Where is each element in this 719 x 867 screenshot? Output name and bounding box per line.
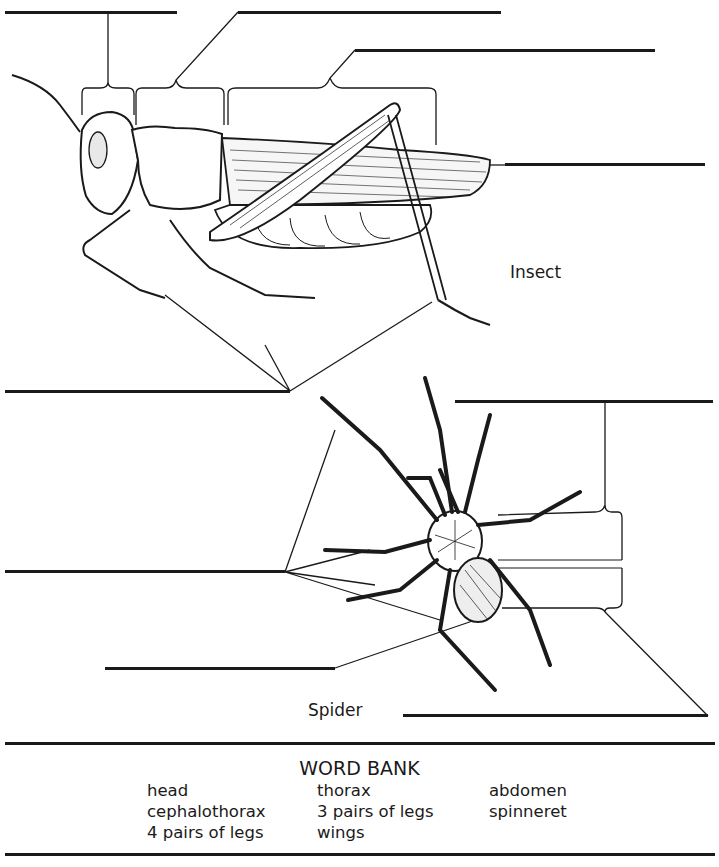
spider-leg-1: [322, 398, 437, 520]
spider-abdomen-blank[interactable]: [403, 714, 708, 717]
spider-leg-5: [325, 540, 430, 552]
grasshopper-antenna: [12, 75, 80, 132]
insect-legs-blank[interactable]: [5, 390, 290, 393]
spider-leg-6: [348, 560, 437, 600]
word-bank-top-rule: [5, 742, 715, 745]
grasshopper-eye: [89, 132, 107, 168]
word-bank-column-2: thorax 3 pairs of legs wings: [317, 780, 434, 843]
legs-leaders: [165, 295, 432, 391]
word-bank-column-1: head cephalothorax 4 pairs of legs: [147, 780, 266, 843]
word-cephalothorax: cephalothorax: [147, 801, 266, 822]
word-bank-column-3: abdomen spinneret: [489, 780, 567, 822]
spider-legs-blank[interactable]: [5, 570, 285, 573]
word-thorax: thorax: [317, 780, 434, 801]
spider-cephalothorax-blank[interactable]: [455, 400, 713, 403]
word-bank-title: WORD BANK: [0, 757, 719, 779]
spider-spinneret-blank[interactable]: [105, 667, 335, 670]
spider-abdomen-bracket: [502, 568, 708, 716]
grasshopper-thorax: [132, 126, 222, 209]
spider-leg-4: [478, 492, 580, 525]
head-bracket: [82, 12, 134, 115]
abdomen-bracket: [228, 50, 436, 145]
insect-head-blank[interactable]: [5, 11, 177, 14]
grasshopper-head: [81, 112, 138, 214]
insect-thorax-blank[interactable]: [238, 11, 501, 14]
word-spinneret: spinneret: [489, 801, 567, 822]
cephalothorax-bracket: [498, 402, 622, 560]
word-4-pairs-of-legs: 4 pairs of legs: [147, 822, 266, 843]
word-abdomen: abdomen: [489, 780, 567, 801]
spider-legs-leaders: [285, 430, 440, 620]
word-head: head: [147, 780, 266, 801]
insect-abdomen-blank[interactable]: [355, 49, 655, 52]
spider-caption: Spider: [308, 700, 363, 720]
word-wings: wings: [317, 822, 434, 843]
word-3-pairs-of-legs: 3 pairs of legs: [317, 801, 434, 822]
insect-caption: Insect: [510, 262, 561, 282]
grasshopper-front-leg: [83, 210, 165, 298]
word-bank-bottom-rule: [5, 853, 715, 856]
diagram-artwork: [0, 0, 719, 867]
insect-wings-blank[interactable]: [505, 163, 705, 166]
thorax-bracket: [136, 12, 238, 125]
spider-leg-3: [465, 415, 490, 512]
